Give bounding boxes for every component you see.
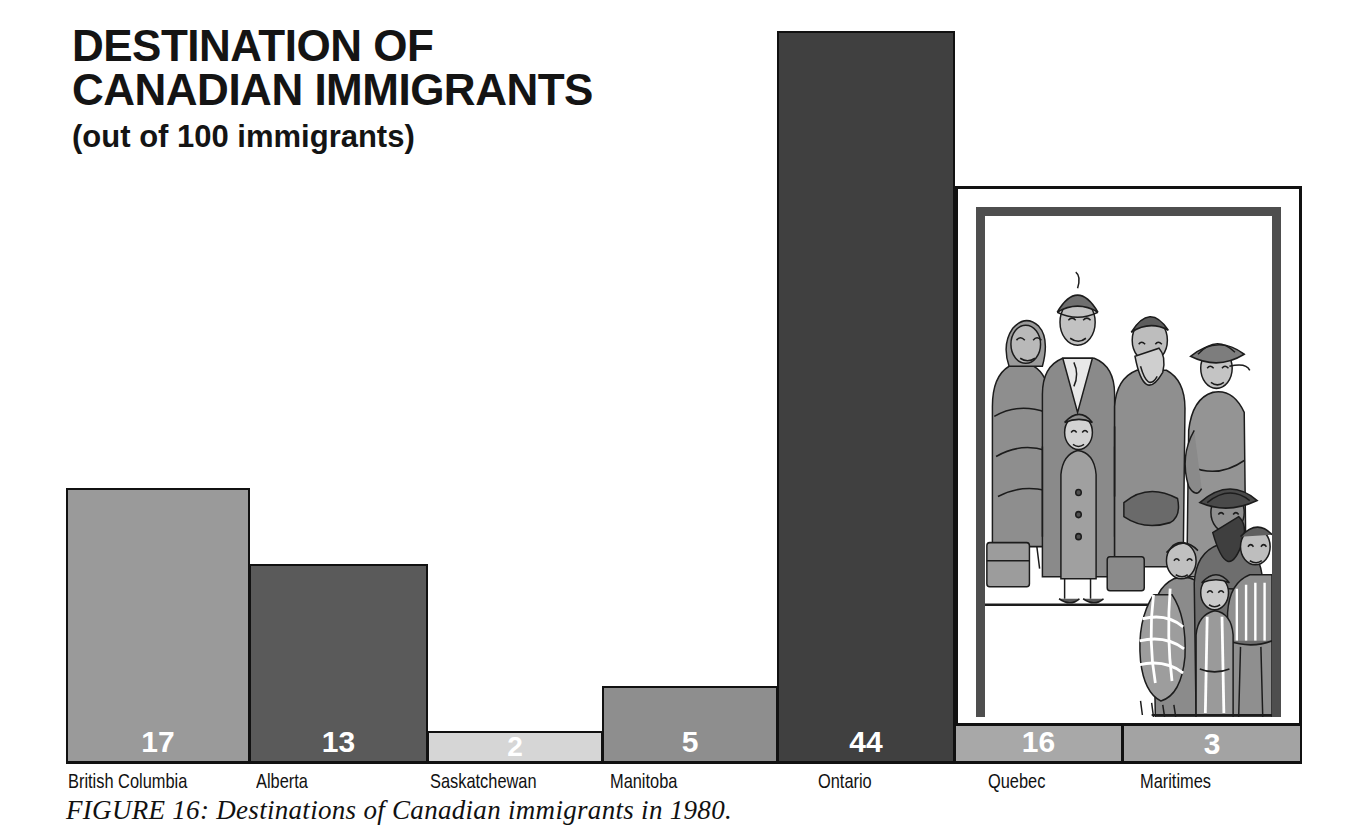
illustration-artwork bbox=[985, 216, 1272, 717]
bar-chart-plot-area: 17 13 2 5 44 16 3 bbox=[0, 0, 1362, 766]
bar-value-saskatchewan: 2 bbox=[429, 732, 601, 762]
category-label-quebec: Quebec bbox=[988, 769, 1045, 793]
bar-british-columbia: 17 bbox=[66, 488, 250, 763]
category-label-maritimes: Maritimes bbox=[1140, 769, 1211, 793]
bar-saskatchewan: 2 bbox=[427, 731, 603, 763]
bar-value-manitoba: 5 bbox=[604, 727, 776, 757]
bar-value-alberta: 13 bbox=[251, 727, 426, 757]
bar-value-ontario: 44 bbox=[779, 727, 953, 757]
bar-value-maritimes: 3 bbox=[1124, 729, 1300, 759]
figure-caption: FIGURE 16: Destinations of Canadian immi… bbox=[66, 794, 732, 826]
category-label-ontario: Ontario bbox=[818, 769, 872, 793]
illustration-mat bbox=[964, 195, 1293, 717]
bar-alberta: 13 bbox=[249, 564, 428, 763]
category-label-alberta: Alberta bbox=[256, 769, 308, 793]
bar-ontario: 44 bbox=[777, 31, 955, 763]
bar-manitoba: 5 bbox=[602, 686, 778, 763]
bar-value-quebec: 16 bbox=[956, 727, 1121, 757]
category-label-manitoba: Manitoba bbox=[610, 769, 677, 793]
category-label-saskatchewan: Saskatchewan bbox=[430, 769, 537, 793]
figure-destination-of-canadian-immigrants: DESTINATION OF CANADIAN IMMIGRANTS (out … bbox=[0, 0, 1362, 834]
category-label-british-columbia: British Columbia bbox=[68, 769, 187, 793]
immigrant-family-illustration bbox=[955, 186, 1302, 726]
bar-value-british-columbia: 17 bbox=[68, 727, 248, 757]
illustration-inner-frame bbox=[976, 207, 1281, 717]
chart-baseline bbox=[66, 761, 1302, 764]
